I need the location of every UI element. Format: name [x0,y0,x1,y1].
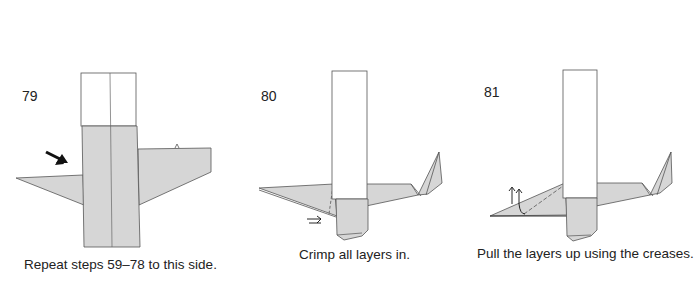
step-number: 81 [484,84,500,100]
step-81: 81 Pull the layers up using the creases. [470,0,694,300]
step-caption: Repeat steps 59–78 to this side. [24,257,217,272]
step-79-diagram [0,0,230,300]
push-in-arrow-icon [46,152,68,165]
step-caption: Pull the layers up using the creases. [477,246,694,261]
step-caption: Crimp all layers in. [299,247,410,262]
step-number: 79 [22,88,38,104]
step-80: 80 Crimp all layers in. [240,0,460,300]
step-number: 80 [261,88,277,104]
step-79: 79 Repeat steps 59–78 to this side. [0,0,230,300]
crimp-arrow-icon [307,216,321,223]
